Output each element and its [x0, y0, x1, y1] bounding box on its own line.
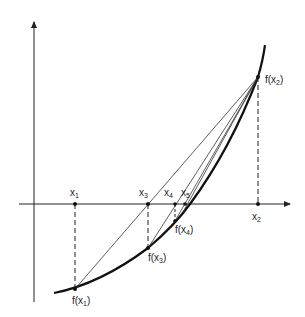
- secant-line-1: [75, 77, 258, 289]
- label-x2: x2: [252, 211, 261, 223]
- point-fx3: [146, 246, 150, 250]
- label-fx4: f(x4): [175, 224, 193, 236]
- point-x3: [146, 202, 150, 206]
- point-x2: [256, 202, 260, 206]
- point-fx2: [256, 75, 260, 79]
- secant-line-2: [148, 77, 258, 248]
- label-fx3: f(x3): [148, 252, 166, 264]
- label-x3: x3: [139, 187, 148, 199]
- point-x5: [183, 202, 187, 206]
- point-x4: [173, 202, 177, 206]
- label-fx2: f(x2): [265, 74, 283, 86]
- point-x1: [73, 202, 77, 206]
- function-curve: [54, 45, 265, 293]
- label-fx1: f(x1): [72, 295, 90, 307]
- secant-line-4: [183, 77, 258, 212]
- label-x1: x1: [70, 187, 79, 199]
- point-fx1: [73, 287, 77, 291]
- label-x4: x4: [164, 187, 173, 199]
- label-x5: x5: [181, 187, 190, 199]
- point-fx4: [173, 219, 177, 223]
- regula-falsi-diagram: x1 x3 x4 x5 x2 f(x2) f(x4) f(x3) f(x1): [0, 0, 305, 317]
